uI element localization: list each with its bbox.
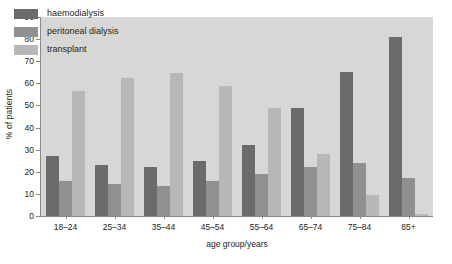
- x-axis-tick-mark: [262, 216, 263, 219]
- bar-chart-figure: % of patients 0102030405060708090 18–242…: [0, 0, 452, 264]
- x-axis-tick-label: 18–24: [54, 223, 78, 232]
- x-axis-tick-label: 45–54: [201, 223, 225, 232]
- legend-color-swatch: [14, 9, 38, 19]
- bar: [46, 156, 59, 216]
- x-axis-title: age group/years: [41, 239, 433, 249]
- bar-group: 55–64: [237, 17, 286, 216]
- x-axis-tick-label: 25–34: [103, 223, 127, 232]
- bar-group: 75–84: [335, 17, 384, 216]
- bar: [121, 78, 134, 216]
- legend-item-label: transplant: [47, 45, 87, 54]
- y-axis-tick-label: 0: [29, 212, 34, 221]
- bar: [193, 161, 206, 216]
- bar: [402, 178, 415, 216]
- bar: [206, 181, 219, 216]
- y-axis-tick-mark: [36, 216, 41, 217]
- bar-group: 45–54: [188, 17, 237, 216]
- y-axis-tick-label: 10: [25, 190, 34, 199]
- bar: [340, 72, 353, 216]
- x-axis-tick-mark: [213, 216, 214, 219]
- bar: [59, 181, 72, 216]
- bar: [170, 73, 183, 216]
- bar: [291, 108, 304, 216]
- bar: [415, 214, 428, 216]
- bar: [366, 195, 379, 216]
- bar: [317, 154, 330, 216]
- x-axis-tick-mark: [115, 216, 116, 219]
- bar: [255, 174, 268, 216]
- x-axis-tick-label: 75–84: [348, 223, 372, 232]
- bar: [144, 167, 157, 216]
- y-axis-tick-label: 30: [25, 145, 34, 154]
- legend-color-swatch: [14, 27, 38, 37]
- x-axis-tick-label: 35–44: [152, 223, 176, 232]
- x-axis-tick-mark: [66, 216, 67, 219]
- bar-group: 35–44: [139, 17, 188, 216]
- y-axis-tick-label: 50: [25, 101, 34, 110]
- bar-group: 65–74: [286, 17, 335, 216]
- bar: [108, 184, 121, 216]
- bar: [304, 167, 317, 216]
- y-axis-title-text: % of patients: [4, 89, 14, 139]
- legend-item: transplant: [14, 41, 119, 58]
- x-axis-tick-mark: [311, 216, 312, 219]
- x-axis-tick-mark: [409, 216, 410, 219]
- legend-item: haemodialysis: [14, 5, 119, 22]
- bar: [268, 108, 281, 216]
- bar: [353, 163, 366, 216]
- legend-item: peritoneal dialysis: [14, 23, 119, 40]
- bar: [72, 91, 85, 216]
- x-axis-tick-label: 65–74: [299, 223, 323, 232]
- y-axis-tick-label: 60: [25, 79, 34, 88]
- bar: [95, 165, 108, 216]
- x-axis-line: [40, 216, 433, 217]
- x-axis-tick-label: 55–64: [250, 223, 274, 232]
- bar: [157, 186, 170, 216]
- chart-legend: haemodialysisperitoneal dialysistranspla…: [14, 5, 119, 59]
- legend-item-label: haemodialysis: [47, 9, 104, 18]
- y-axis-tick-label: 40: [25, 123, 34, 132]
- legend-item-label: peritoneal dialysis: [47, 27, 119, 36]
- bar: [219, 86, 232, 216]
- x-axis-tick-label: 85+: [401, 223, 415, 232]
- legend-color-swatch: [14, 45, 38, 55]
- y-axis-tick-label: 20: [25, 168, 34, 177]
- x-axis-tick-mark: [164, 216, 165, 219]
- bar: [389, 37, 402, 216]
- x-axis-tick-mark: [360, 216, 361, 219]
- bar: [242, 145, 255, 216]
- bar-group: 85+: [384, 17, 433, 216]
